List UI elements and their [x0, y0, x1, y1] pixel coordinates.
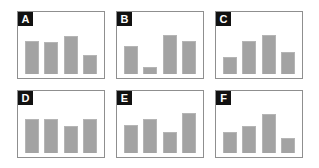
bar — [83, 55, 97, 74]
bar — [262, 114, 276, 153]
panel-d: D — [17, 90, 105, 158]
bar — [143, 119, 157, 153]
panel-e: E — [116, 90, 204, 158]
panel-label-a: A — [18, 12, 33, 26]
panel-label-c: C — [216, 12, 231, 26]
bar — [64, 36, 78, 74]
plot-area-c — [223, 28, 295, 74]
panel-label-d: D — [18, 91, 33, 105]
panel-label-f: F — [216, 91, 231, 105]
bar — [182, 113, 196, 153]
bar — [182, 41, 196, 74]
plot-area-e — [124, 107, 196, 153]
bar — [223, 132, 237, 153]
bar — [281, 138, 295, 153]
panel-grid: A B C — [17, 11, 303, 158]
bar — [25, 119, 39, 154]
panel-label-e: E — [117, 91, 132, 105]
plot-area-d — [25, 107, 97, 153]
bar — [124, 125, 138, 153]
panel-b: B — [116, 11, 204, 79]
bar — [262, 35, 276, 74]
plot-area-b — [124, 28, 196, 74]
bar — [44, 119, 58, 153]
bar — [163, 35, 177, 74]
figure-root: A B C — [0, 0, 319, 168]
bar — [143, 67, 157, 74]
plot-area-a — [25, 28, 97, 74]
bar — [242, 41, 256, 74]
bar — [64, 126, 78, 153]
bar — [242, 126, 256, 153]
bar — [281, 52, 295, 74]
panel-c: C — [215, 11, 303, 79]
bar — [124, 46, 138, 74]
panel-f: F — [215, 90, 303, 158]
bar — [83, 119, 97, 153]
plot-area-f — [223, 107, 295, 153]
panel-a: A — [17, 11, 105, 79]
bar — [44, 42, 58, 74]
bar — [223, 57, 237, 74]
panel-label-b: B — [117, 12, 132, 26]
bar — [25, 41, 39, 74]
bar — [163, 132, 177, 153]
